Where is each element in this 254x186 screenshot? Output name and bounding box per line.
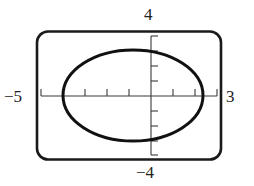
ymin-label: −4 bbox=[136, 164, 154, 181]
xmax-label: 3 bbox=[226, 88, 235, 105]
x-axis-ticks bbox=[41, 89, 217, 96]
ymax-label: 4 bbox=[144, 6, 153, 23]
graphing-calculator-screen bbox=[0, 0, 254, 186]
xmin-label: −5 bbox=[4, 88, 22, 105]
